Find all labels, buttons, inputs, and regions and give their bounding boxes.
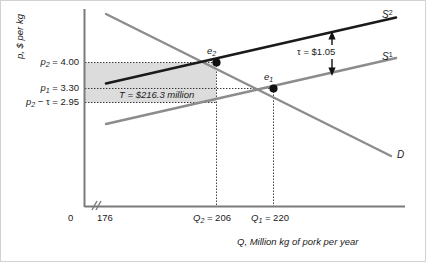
x-axis-origin-label: 0 — [68, 213, 73, 223]
x-axis-first-tick-label: 176 — [97, 213, 113, 223]
curve-label-d: D — [397, 149, 404, 160]
supply-curve-s2 — [106, 18, 396, 84]
curve-label-s1: S1 — [382, 51, 393, 62]
equilibrium-label-e1-subscript: 1 — [269, 76, 273, 83]
figure-container: p, $ per kg Q, Million kg of pork per ye… — [0, 0, 426, 262]
equilibrium-point-e2 — [212, 58, 220, 66]
x-axis-title-text: Q, Million kg of pork per year — [237, 236, 358, 247]
curve-label-s1-superscript: 1 — [389, 51, 393, 58]
equilibrium-point-e1 — [269, 84, 277, 92]
quantity-label-q1-value: = 220 — [262, 212, 289, 223]
curve-label-s2-superscript: 2 — [389, 9, 393, 16]
price-label-p2: p2 = 4.00 — [13, 57, 79, 68]
tax-per-unit-annotation: τ = $1.05 — [297, 46, 335, 57]
quantity-label-q2: Q2 = 206 — [193, 213, 231, 224]
equilibrium-label-e2: e2 — [207, 45, 216, 57]
tax-revenue-annotation: T = $216.3 million — [119, 89, 194, 100]
equilibrium-label-e1: e1 — [264, 71, 273, 83]
quantity-label-q1: Q1 = 220 — [251, 213, 289, 224]
curve-label-s1-symbol: S — [382, 51, 389, 62]
equilibrium-label-e2-subscript: 2 — [212, 50, 216, 57]
price-label-p1-value: = 3.30 — [50, 82, 79, 93]
price-label-p1: p1 = 3.30 — [13, 83, 79, 94]
price-label-p2t-value: − τ = 2.95 — [35, 96, 79, 107]
x-axis-title: Q, Million kg of pork per year — [237, 236, 358, 247]
price-label-p2-minus-tau: p2 − τ = 2.95 — [5, 97, 79, 108]
curve-label-s2: S2 — [382, 9, 393, 20]
price-label-p2-value: = 4.00 — [50, 56, 79, 67]
tax-revenue-annotation-text: T = $216.3 million — [119, 89, 194, 100]
curve-label-s2-symbol: S — [382, 9, 389, 20]
quantity-label-q2-value: = 206 — [204, 212, 231, 223]
